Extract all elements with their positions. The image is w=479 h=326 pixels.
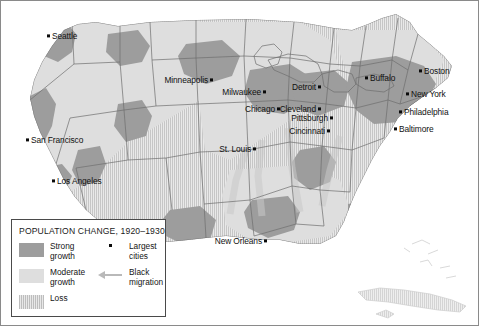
legend-item-moderate-growth: Moderate growth <box>19 268 94 287</box>
city-label-chicago: Chicago <box>245 105 275 113</box>
city-label-buffalo: Buffalo <box>370 74 395 82</box>
city-label-new-orleans: New Orleans <box>215 237 262 245</box>
black-migration-label: Black migration <box>129 268 163 287</box>
moderate-growth-label: Moderate growth <box>50 268 85 287</box>
black-migration-arrow-icon <box>98 270 123 279</box>
city-dot-icon <box>318 86 321 89</box>
city-label-st-louis: St. Louis <box>219 145 251 153</box>
city-dot-icon <box>253 148 256 151</box>
city-name-text: Cincinnati <box>289 127 325 135</box>
city-dot-icon <box>399 111 402 114</box>
legend-item-black-migration: Black migration <box>98 268 158 287</box>
legend-line-2: growth <box>50 251 75 261</box>
city-label-new-york: New York <box>411 90 446 98</box>
largest-cities-label: Largest cities <box>129 242 157 261</box>
legend-column-symbols: Largest cities Black migration <box>98 242 158 309</box>
legend-column-classes: Strong growth Moderate growth Loss <box>19 242 94 309</box>
city-dot-icon <box>330 117 333 120</box>
city-dot-icon <box>394 128 397 131</box>
city-name-text: Philadelphia <box>404 108 448 116</box>
city-name-text: Chicago <box>245 105 275 113</box>
city-name-text: Los Angeles <box>57 177 102 185</box>
city-name-text: Buffalo <box>370 74 395 82</box>
legend-line-1: Largest <box>129 241 157 251</box>
city-dot-icon <box>52 180 55 183</box>
city-name-text: Milwaukee <box>222 88 261 96</box>
legend-line-1: Strong <box>50 241 74 251</box>
legend-title: POPULATION CHANGE, 1920–1930 <box>19 226 158 236</box>
largest-cities-dot-icon <box>98 244 123 247</box>
city-label-cincinnati: Cincinnati <box>289 127 325 135</box>
city-label-baltimore: Baltimore <box>399 125 433 133</box>
legend-line-1: Moderate <box>50 267 85 277</box>
map-legend: POPULATION CHANGE, 1920–1930 Strong grow… <box>11 219 166 317</box>
city-label-san-francisco: San Francisco <box>31 136 83 144</box>
city-dot-icon <box>263 91 266 94</box>
legend-item-largest-cities: Largest cities <box>98 242 158 261</box>
city-name-text: Baltimore <box>399 125 433 133</box>
population-change-map: SeattleSan FranciscoLos AngelesMinneapol… <box>0 0 479 326</box>
bahamas-islands <box>404 240 456 278</box>
legend-item-strong-growth: Strong growth <box>19 242 94 261</box>
strong-growth-swatch <box>19 243 44 257</box>
city-dot-icon <box>264 240 267 243</box>
legend-line-2: migration <box>129 277 163 287</box>
legend-line-2: cities <box>129 251 148 261</box>
city-dot-icon <box>327 130 330 133</box>
city-name-text: Detroit <box>292 83 316 91</box>
city-name-text: Seattle <box>52 32 77 40</box>
city-dot-icon <box>406 93 409 96</box>
legend-item-loss: Loss <box>19 294 94 309</box>
city-name-text: Minneapolis <box>164 76 208 84</box>
loss-label: Loss <box>50 294 68 304</box>
city-dot-icon <box>365 77 368 80</box>
city-label-boston: Boston <box>424 67 449 75</box>
city-name-text: New Orleans <box>215 237 262 245</box>
city-dot-icon <box>318 108 321 111</box>
city-dot-icon <box>419 70 422 73</box>
city-label-minneapolis: Minneapolis <box>164 76 208 84</box>
moderate-growth-swatch <box>19 269 44 283</box>
city-label-seattle: Seattle <box>52 32 77 40</box>
city-name-text: St. Louis <box>219 145 251 153</box>
city-dot-icon <box>47 35 50 38</box>
city-name-text: San Francisco <box>31 136 83 144</box>
city-name-text: New York <box>411 90 446 98</box>
city-label-milwaukee: Milwaukee <box>222 88 261 96</box>
city-dot-icon <box>26 139 29 142</box>
loss-swatch <box>19 295 44 309</box>
city-label-pittsburgh: Pittsburgh <box>291 114 328 122</box>
caribbean-islands <box>358 288 466 318</box>
legend-line-1: Black <box>129 267 149 277</box>
city-name-text: Boston <box>424 67 449 75</box>
city-label-los-angeles: Los Angeles <box>57 177 102 185</box>
city-name-text: Pittsburgh <box>291 114 328 122</box>
legend-line-2: growth <box>50 277 75 287</box>
city-label-detroit: Detroit <box>292 83 316 91</box>
strong-growth-label: Strong growth <box>50 242 75 261</box>
city-label-philadelphia: Philadelphia <box>404 108 448 116</box>
city-dot-icon <box>210 79 213 82</box>
